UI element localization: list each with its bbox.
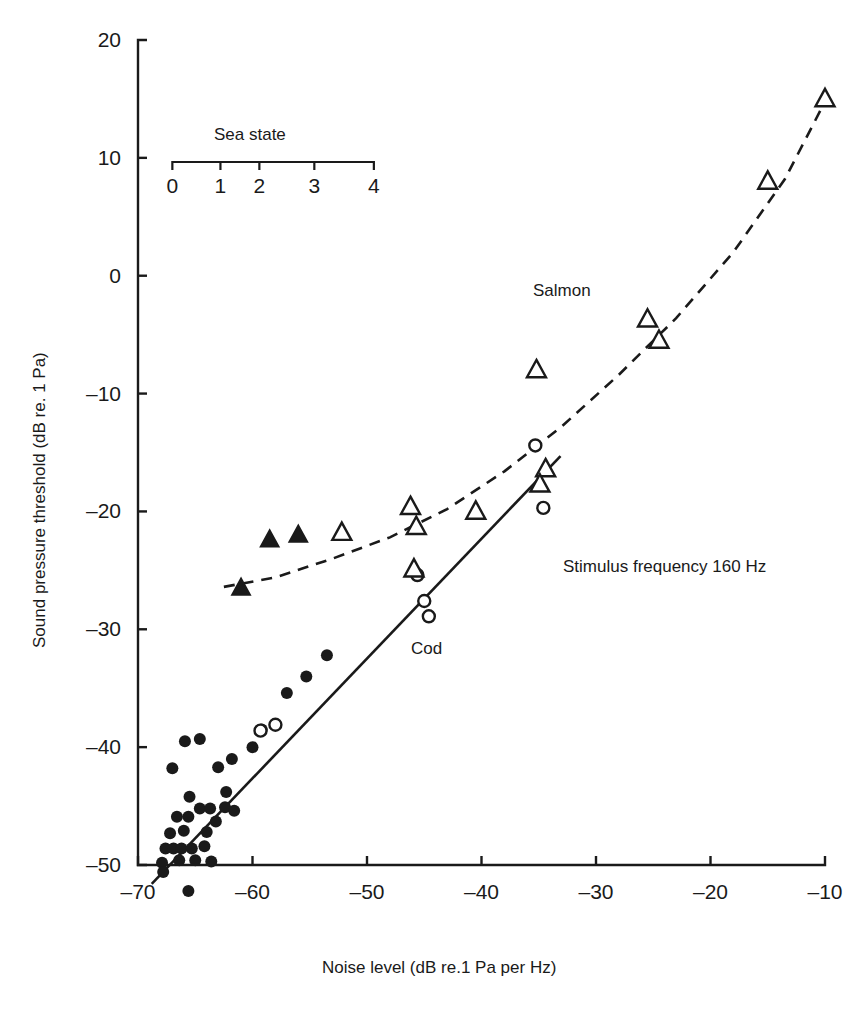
- data-point-filled-circle: [157, 866, 169, 878]
- data-point-filled-circle: [226, 753, 238, 765]
- data-point-open-triangle: [649, 330, 668, 347]
- y-tick-label: 20: [98, 28, 121, 51]
- y-axis-spine: [138, 40, 147, 865]
- y-tick-label: 0: [109, 264, 121, 287]
- data-point-filled-circle: [204, 802, 216, 814]
- y-tick-label: –30: [86, 617, 121, 640]
- data-point-filled-circle: [210, 815, 222, 827]
- annotation-salmon: Salmon: [533, 281, 591, 301]
- data-point-open-triangle: [527, 360, 546, 377]
- data-point-open-triangle: [466, 501, 485, 518]
- annotation-cod: Cod: [411, 639, 442, 659]
- data-point-open-circle: [537, 502, 549, 514]
- data-point-open-circle: [255, 725, 267, 737]
- data-point-filled-circle: [281, 687, 293, 699]
- data-point-open-triangle: [407, 517, 426, 534]
- data-point-open-triangle: [758, 171, 777, 188]
- sea-state-tick-label: 0: [167, 174, 179, 197]
- sea-state-axis-spine: [172, 162, 374, 170]
- data-point-open-triangle: [816, 89, 835, 106]
- data-point-open-circle: [529, 439, 541, 451]
- sea-state-tick-label: 2: [254, 174, 266, 197]
- y-tick-label: –40: [86, 735, 121, 758]
- data-point-open-triangle: [401, 497, 420, 514]
- x-tick-label: –60: [235, 880, 270, 903]
- data-point-open-circle: [418, 595, 430, 607]
- data-point-open-circle: [269, 719, 281, 731]
- data-point-filled-triangle: [290, 526, 307, 541]
- sea-state-tick-label: 4: [368, 174, 380, 197]
- annotation-stimulus-frequency: Stimulus frequency 160 Hz: [563, 557, 766, 577]
- data-point-filled-circle: [220, 786, 232, 798]
- data-point-filled-circle: [228, 805, 240, 817]
- data-point-filled-circle: [178, 825, 190, 837]
- sea-state-tick-label: 1: [215, 174, 227, 197]
- x-axis-title: Noise level (dB re.1 Pa per Hz): [322, 958, 556, 978]
- data-point-filled-circle: [166, 762, 178, 774]
- x-tick-label: –70: [120, 880, 155, 903]
- y-tick-label: 10: [98, 146, 121, 169]
- x-tick-label: –30: [578, 880, 613, 903]
- x-tick-label: –20: [693, 880, 728, 903]
- data-point-filled-circle: [171, 811, 183, 823]
- data-point-filled-circle: [184, 791, 196, 803]
- x-tick-label: –10: [807, 880, 842, 903]
- data-point-open-circle: [423, 610, 435, 622]
- data-point-open-triangle: [638, 309, 657, 326]
- data-point-filled-circle: [205, 855, 217, 867]
- sea-state-tick-label: 3: [308, 174, 320, 197]
- data-point-filled-circle: [198, 840, 210, 852]
- y-tick-label: –10: [86, 382, 121, 405]
- data-point-filled-circle: [194, 733, 206, 745]
- data-point-filled-circle: [300, 670, 312, 682]
- data-point-filled-circle: [176, 843, 188, 855]
- x-tick-label: –50: [349, 880, 384, 903]
- data-point-filled-triangle: [261, 531, 278, 546]
- data-point-filled-circle: [321, 649, 333, 661]
- data-point-filled-circle: [186, 843, 198, 855]
- data-point-filled-circle: [179, 735, 191, 747]
- data-point-open-triangle: [404, 559, 423, 576]
- data-point-filled-circle: [182, 885, 194, 897]
- y-tick-label: –20: [86, 499, 121, 522]
- data-point-filled-circle: [182, 811, 194, 823]
- data-point-filled-circle: [212, 761, 224, 773]
- y-axis-title: Sound pressure threshold (dB re. 1 Pa): [30, 352, 50, 648]
- sea-state-title: Sea state: [214, 125, 286, 145]
- x-tick-label: –40: [464, 880, 499, 903]
- data-point-filled-circle: [194, 802, 206, 814]
- data-point-open-triangle: [332, 523, 351, 540]
- data-point-filled-circle: [201, 826, 213, 838]
- data-point-filled-circle: [173, 854, 185, 866]
- data-point-filled-circle: [164, 827, 176, 839]
- data-point-filled-circle: [247, 741, 259, 753]
- y-tick-label: –50: [86, 853, 121, 876]
- data-point-filled-circle: [189, 854, 201, 866]
- chart-canvas: –50–40–30–20–1001020–70–60–50–40–30–20–1…: [0, 0, 854, 1011]
